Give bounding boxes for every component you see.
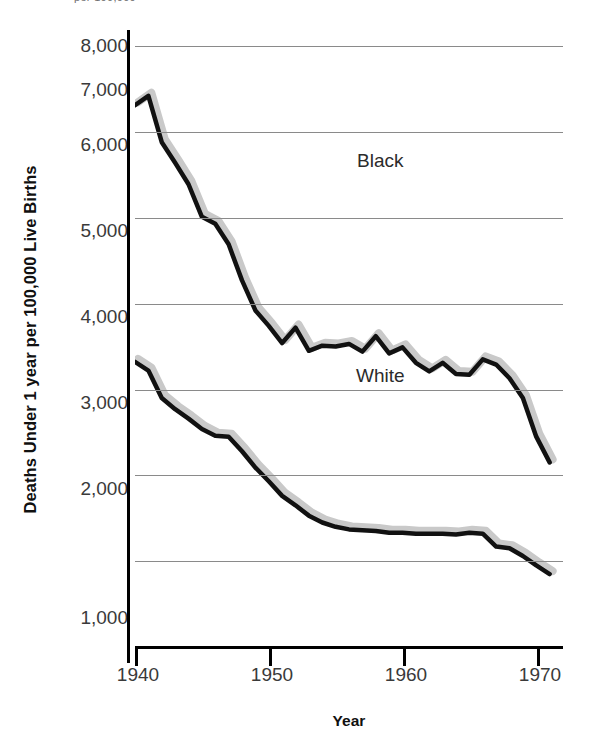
x-axis-line [135,646,563,649]
gridline-4000 [135,390,563,391]
x-axis-title: Year [135,712,563,730]
x-tick-1940: 1940 [93,664,183,686]
series-lines [135,46,563,647]
y-tick-labels: 1,000 2,000 3,000 4,000 5,000 6,000 7,00… [40,0,128,744]
series-label-white: White [356,365,405,387]
infant-mortality-line-chart: per 100,000 Deaths Under 1 year per 100,… [0,0,596,744]
y-tick-6000: 6,000 [44,135,128,154]
y-tick-7000: 7,000 [44,80,128,99]
white-series-line [135,362,550,574]
gridline-3000 [135,475,563,476]
y-tick-1000: 1,000 [44,608,128,627]
x-tick-1960: 1960 [361,664,451,686]
y-tick-2000: 2,000 [44,479,128,498]
gridline-2000 [135,561,563,562]
y-tick-3000: 3,000 [44,393,128,412]
y-tick-4000: 4,000 [44,307,128,326]
plot-area [135,46,563,647]
y-tick-8000: 8,000 [44,36,128,55]
series-label-black: Black [357,150,403,172]
x-tick-1970: 1970 [495,664,585,686]
gridline-7000 [135,132,563,133]
black-series-shadow [138,93,553,460]
gridline-5000 [135,304,563,305]
x-tick-1950: 1950 [227,664,317,686]
y-tick-5000: 5,000 [44,221,128,240]
gridline-6000 [135,218,563,219]
gridline-8000 [135,46,563,47]
y-axis-title: Deaths Under 1 year per 100,000 Live Bir… [21,105,40,575]
black-series-line [135,96,550,463]
y-axis-line [127,30,130,663]
